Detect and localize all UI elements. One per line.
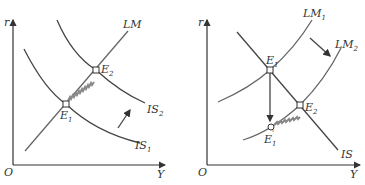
is1-curve xyxy=(24,49,140,143)
left-x-axis-label: Y xyxy=(157,168,166,181)
is-lm-diagrams: r O Y LM IS1 IS2 E1 E2 r xyxy=(0,0,365,185)
point-e1 xyxy=(63,101,69,107)
point-e2 xyxy=(93,67,99,73)
is-label: IS xyxy=(340,148,353,161)
e1-label-right: E1 xyxy=(265,54,279,69)
is2-label: IS2 xyxy=(146,103,164,118)
e1-label: E1 xyxy=(59,109,73,124)
right-y-axis-label: r xyxy=(198,16,204,29)
right-origin-label: O xyxy=(198,166,207,179)
right-panel: r O Y IS LM1 LM2 E1 E2 E1 ' xyxy=(198,7,360,181)
left-origin-label: O xyxy=(4,166,13,179)
lm1-label: LM1 xyxy=(302,7,326,22)
left-panel: r O Y LM IS1 IS2 E1 E2 xyxy=(4,16,166,181)
lm2-curve xyxy=(243,48,341,140)
lm2-label: LM2 xyxy=(334,38,359,53)
point-e1-right xyxy=(267,67,273,73)
right-x-axis-label: Y xyxy=(350,168,359,181)
shift-arrow-icon-right xyxy=(310,38,330,56)
lm-curve xyxy=(25,31,128,151)
is1-label: IS1 xyxy=(134,139,151,154)
e1-prime-mark: ' xyxy=(272,129,274,137)
point-e2-right xyxy=(297,102,303,108)
left-y-axis-label: r xyxy=(4,16,10,29)
e1-prime-label: E1 xyxy=(263,133,277,148)
e2-label: E2 xyxy=(100,63,114,78)
e2-label-right: E2 xyxy=(304,101,318,116)
lm-label: LM xyxy=(122,18,142,31)
shift-arrow-icon xyxy=(118,110,130,128)
adjustment-path-right xyxy=(274,117,300,125)
lm1-curve xyxy=(218,20,312,102)
